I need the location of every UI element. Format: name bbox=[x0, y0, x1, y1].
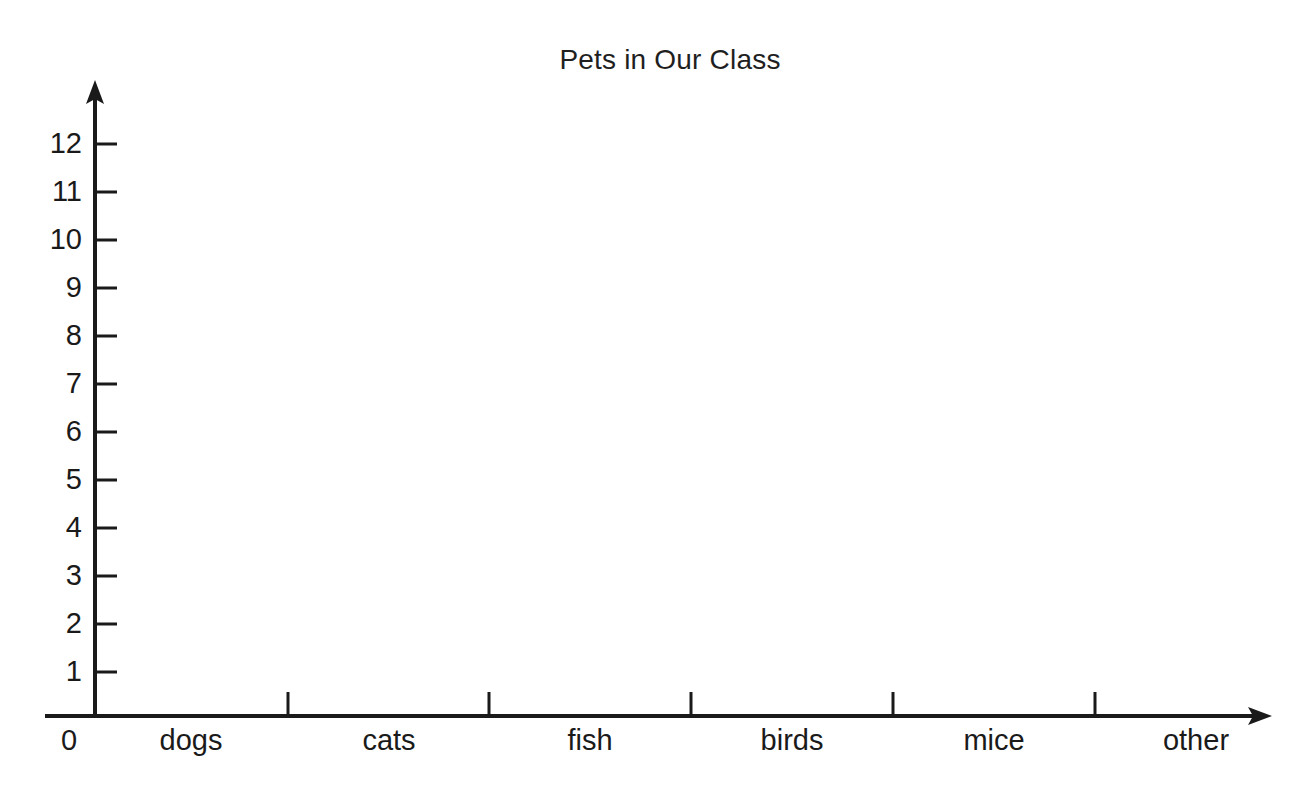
x-axis-category-other: other bbox=[1096, 726, 1296, 755]
y-axis-label-9: 9 bbox=[22, 273, 82, 302]
y-axis-label-10: 10 bbox=[22, 225, 82, 254]
x-axis-category-birds: birds bbox=[692, 726, 892, 755]
axis-origin-label-0: 0 bbox=[61, 726, 77, 755]
y-axis-label-4: 4 bbox=[22, 513, 82, 542]
bar-chart-worksheet: Pets in Our Class bbox=[0, 0, 1313, 810]
x-axis-category-mice: mice bbox=[894, 726, 1094, 755]
chart-axes-svg bbox=[0, 0, 1313, 810]
y-axis-label-5: 5 bbox=[22, 465, 82, 494]
x-axis-category-cats: cats bbox=[289, 726, 489, 755]
y-axis-group bbox=[86, 80, 104, 716]
y-axis-label-2: 2 bbox=[22, 609, 82, 638]
y-axis-label-12: 12 bbox=[22, 129, 82, 158]
y-axis-label-3: 3 bbox=[22, 561, 82, 590]
y-axis-label-7: 7 bbox=[22, 369, 82, 398]
y-axis-label-11: 11 bbox=[22, 177, 82, 206]
x-axis-ticks bbox=[288, 692, 1095, 716]
x-axis-group bbox=[45, 707, 1272, 725]
x-axis-category-dogs: dogs bbox=[91, 726, 291, 755]
y-axis-label-8: 8 bbox=[22, 321, 82, 350]
x-axis-category-fish: fish bbox=[490, 726, 690, 755]
y-axis-label-1: 1 bbox=[22, 657, 82, 686]
y-axis-ticks bbox=[95, 144, 117, 672]
y-axis-label-6: 6 bbox=[22, 417, 82, 446]
